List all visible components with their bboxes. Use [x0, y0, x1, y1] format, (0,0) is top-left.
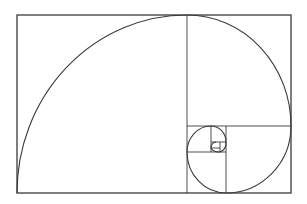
outer-rectangle	[17, 15, 291, 193]
golden-rectangle-grid	[17, 15, 291, 193]
diagram-canvas	[0, 0, 307, 204]
golden-spiral	[17, 15, 291, 193]
